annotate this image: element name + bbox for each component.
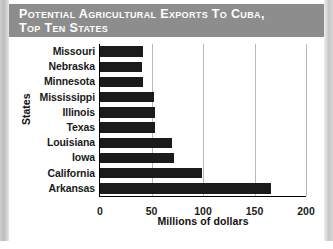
- category-label-iowa: Iowa: [72, 150, 95, 165]
- bar-row: Arkansas: [100, 181, 306, 196]
- category-label-texas: Texas: [67, 120, 96, 135]
- bar-row: Nebraska: [100, 59, 306, 74]
- bar-mississippi: [100, 92, 154, 102]
- page-edge-gutter-right: [324, 0, 333, 241]
- category-label-illinois: Illinois: [63, 105, 95, 120]
- page-edge-gutter-left: [0, 0, 9, 241]
- y-axis-label: States: [20, 109, 32, 125]
- chart-title-line-1: Potential Agricultural Exports to Cuba,: [19, 7, 324, 21]
- bar-missouri: [100, 46, 143, 56]
- bar-texas: [100, 122, 155, 132]
- bar-row: Minnesota: [100, 74, 306, 89]
- category-label-missouri: Missouri: [53, 44, 95, 59]
- bar-row: Iowa: [100, 150, 306, 165]
- bar-row: Texas: [100, 120, 306, 135]
- bar-illinois: [100, 107, 155, 117]
- plot-area: MissouriNebraskaMinnesotaMississippiIlli…: [100, 44, 306, 196]
- bar-row: Illinois: [100, 105, 306, 120]
- gridline-200: [306, 44, 307, 196]
- bar-california: [100, 168, 202, 178]
- bar-minnesota: [100, 77, 143, 87]
- chart-title-line-2: Top Ten States: [19, 21, 324, 35]
- category-label-mississippi: Mississippi: [39, 90, 95, 105]
- category-label-nebraska: Nebraska: [49, 59, 95, 74]
- category-label-louisiana: Louisiana: [47, 135, 95, 150]
- bar-row: Louisiana: [100, 135, 306, 150]
- bar-row: Mississippi: [100, 90, 306, 105]
- category-label-arkansas: Arkansas: [49, 181, 95, 196]
- category-label-minnesota: Minnesota: [44, 74, 95, 89]
- category-label-california: California: [48, 166, 95, 181]
- chart-card: States MissouriNebraskaMinnesotaMississi…: [9, 37, 324, 241]
- bar-nebraska: [100, 62, 142, 72]
- x-axis-label: Millions of dollars: [100, 215, 306, 227]
- bar-iowa: [100, 153, 174, 163]
- bar-louisiana: [100, 138, 172, 148]
- bar-row: California: [100, 166, 306, 181]
- chart-title-banner: Potential Agricultural Exports to Cuba, …: [9, 4, 324, 37]
- bar-arkansas: [100, 183, 271, 193]
- figure-container: Potential Agricultural Exports to Cuba, …: [0, 0, 333, 249]
- bar-row: Missouri: [100, 44, 306, 59]
